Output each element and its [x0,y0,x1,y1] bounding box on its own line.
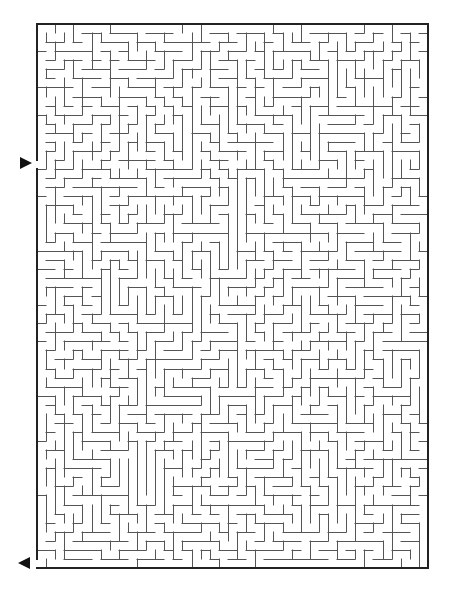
maze-grid [0,0,452,591]
entrance-arrow-icon [20,157,32,169]
exit-arrow-icon [18,557,30,569]
